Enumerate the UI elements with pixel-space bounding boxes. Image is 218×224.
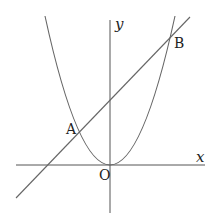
y-axis-label: y <box>114 15 124 33</box>
x-axis-label: x <box>196 148 205 166</box>
origin-label: O <box>99 167 110 183</box>
point-b-label: B <box>174 35 184 51</box>
point-a-label: A <box>65 121 77 137</box>
coordinate-diagram: y x O A B <box>0 0 218 224</box>
